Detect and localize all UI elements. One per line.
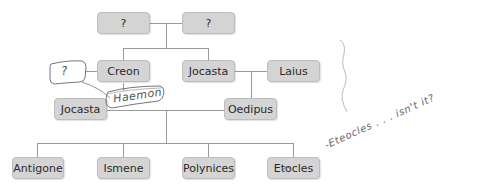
annotation-creon-spouse: ? [60, 64, 68, 79]
brace-sketch [340, 40, 347, 112]
creon-spouse-sketch-box [50, 61, 86, 84]
creon-spouse-to-haemon-curve [82, 82, 110, 98]
handwriting-overlay [0, 0, 488, 190]
